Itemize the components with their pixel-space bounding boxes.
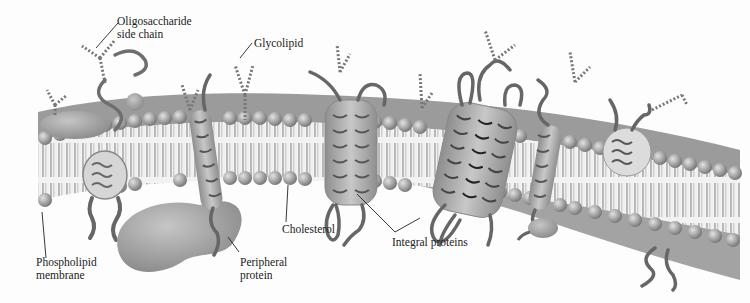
label-line: Oligosaccharide [117,15,192,28]
integral-protein-small-left [83,151,127,240]
label-line: membrane [36,269,97,282]
label-oligosaccharide-side-chain: Oligosaccharide side chain [117,15,192,41]
membrane-illustration [0,0,750,303]
membrane-diagram: Oligosaccharide side chain Glycolipid Ph… [0,0,750,303]
integral-protein-round-right [603,100,651,176]
integral-protein-multipass [429,61,521,245]
glycoprotein-anchor [126,93,144,111]
label-peripheral-protein: Peripheral protein [240,256,287,282]
label-line: side chain [117,28,192,41]
label-cholesterol: Cholesterol [282,223,335,236]
label-line: Phospholipid [36,256,97,269]
label-glycolipid: Glycolipid [254,37,303,50]
peripheral-protein [117,201,241,272]
label-line: Peripheral [240,256,287,269]
label-phospholipid-membrane: Phospholipid membrane [36,256,97,282]
label-line: protein [240,269,287,282]
label-integral-proteins: Integral proteins [392,236,468,249]
surface-protein [40,111,110,139]
